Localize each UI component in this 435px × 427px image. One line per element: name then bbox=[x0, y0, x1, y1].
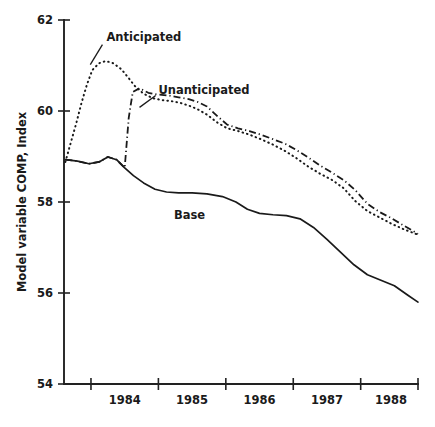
y-tick-label: 62 bbox=[37, 13, 53, 27]
chart-ticks bbox=[58, 20, 418, 390]
x-tick-label: 1988 bbox=[375, 393, 407, 407]
axis-lines bbox=[64, 20, 418, 384]
y-tick-label: 58 bbox=[37, 195, 53, 209]
y-tick-label: 56 bbox=[37, 286, 53, 300]
series-label-anticipated: Anticipated bbox=[106, 30, 181, 44]
x-tick-label: 1985 bbox=[176, 393, 208, 407]
line-chart: 5456586062 19841985198619871988 Model va… bbox=[0, 0, 435, 427]
chart-series bbox=[65, 61, 418, 302]
series-label-base: Base bbox=[174, 208, 205, 222]
x-tick-label: 1986 bbox=[244, 393, 276, 407]
series-line-base bbox=[65, 157, 418, 302]
series-label-unanticipated: Unanticipated bbox=[158, 83, 249, 97]
x-tick-label: 1984 bbox=[109, 393, 141, 407]
y-tick-label: 54 bbox=[37, 377, 53, 391]
x-tick-label: 1987 bbox=[311, 393, 343, 407]
leader-line-anticipated bbox=[90, 45, 102, 65]
y-axis-tick-labels: 5456586062 bbox=[37, 13, 53, 391]
y-tick-label: 60 bbox=[37, 104, 53, 118]
y-axis-title-text: Model variable COMP, Index bbox=[15, 111, 29, 292]
x-axis-tick-labels: 19841985198619871988 bbox=[109, 393, 407, 407]
y-axis-title: Model variable COMP, Index bbox=[15, 111, 29, 292]
chart-axes bbox=[64, 20, 418, 384]
chart-container: 5456586062 19841985198619871988 Model va… bbox=[0, 0, 435, 427]
leader-line-unanticipated bbox=[140, 96, 156, 108]
